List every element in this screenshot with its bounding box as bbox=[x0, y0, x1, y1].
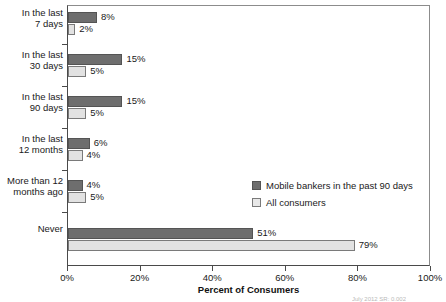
x-axis-tick bbox=[212, 266, 213, 271]
x-axis-tick-label: 60% bbox=[275, 272, 294, 284]
bar bbox=[68, 24, 75, 35]
x-axis-tick-label: 80% bbox=[348, 272, 367, 284]
bar bbox=[68, 54, 122, 65]
x-axis-tick bbox=[285, 266, 286, 271]
bar bbox=[68, 138, 90, 149]
legend-item-label: All consumers bbox=[266, 197, 326, 208]
x-axis-tick bbox=[430, 266, 431, 271]
x-axis-tick bbox=[140, 266, 141, 271]
x-axis-tick-label: 0% bbox=[60, 272, 74, 284]
category-label: In the last 12 months bbox=[0, 133, 63, 155]
bar-value-label: 15% bbox=[126, 95, 145, 107]
bar bbox=[68, 150, 83, 161]
bar-value-label: 5% bbox=[90, 65, 104, 77]
legend-swatch-icon bbox=[252, 198, 261, 207]
category-label: In the last 30 days bbox=[0, 49, 63, 71]
footnote-text: July 2012 SR: 0.002 bbox=[352, 296, 406, 302]
bar bbox=[68, 192, 86, 203]
bar-value-label: 5% bbox=[90, 191, 104, 203]
bar bbox=[68, 12, 97, 23]
category-label: Never bbox=[0, 223, 63, 234]
x-axis-tick-label: 40% bbox=[203, 272, 222, 284]
bar-value-label: 5% bbox=[90, 107, 104, 119]
y-axis-tick bbox=[62, 86, 67, 87]
y-axis-tick bbox=[62, 170, 67, 171]
bar bbox=[68, 228, 253, 239]
category-label: More than 12 months ago bbox=[0, 175, 63, 197]
bar-value-label: 8% bbox=[101, 11, 115, 23]
plot-area bbox=[67, 5, 430, 266]
bar-value-label: 6% bbox=[94, 137, 108, 149]
legend-item-mobile-bankers: Mobile bankers in the past 90 days bbox=[252, 178, 413, 192]
y-axis-tick bbox=[62, 212, 67, 213]
bar-value-label: 2% bbox=[79, 23, 93, 35]
bar bbox=[68, 96, 122, 107]
y-axis-tick bbox=[62, 44, 67, 45]
bar-value-label: 4% bbox=[87, 179, 101, 191]
x-axis-tick-label: 100% bbox=[418, 272, 442, 284]
bar-value-label: 51% bbox=[257, 227, 276, 239]
x-axis-tick-label: 20% bbox=[130, 272, 149, 284]
bar bbox=[68, 108, 86, 119]
bar bbox=[68, 240, 355, 251]
bar bbox=[68, 180, 83, 191]
legend-item-all-consumers: All consumers bbox=[252, 195, 413, 209]
x-axis-tick bbox=[67, 266, 68, 271]
x-axis-tick bbox=[357, 266, 358, 271]
bar-value-label: 79% bbox=[359, 239, 378, 251]
x-axis-title: Percent of Consumers bbox=[67, 284, 430, 295]
bar-value-label: 4% bbox=[87, 149, 101, 161]
legend-item-label: Mobile bankers in the past 90 days bbox=[266, 180, 413, 191]
bar-chart: In the last 7 days8%2%In the last 30 day… bbox=[0, 0, 446, 302]
bar bbox=[68, 66, 86, 77]
bar-value-label: 15% bbox=[126, 53, 145, 65]
category-label: In the last 90 days bbox=[0, 91, 63, 113]
legend-swatch-icon bbox=[252, 181, 261, 190]
chart-legend: Mobile bankers in the past 90 days All c… bbox=[252, 178, 413, 212]
category-label: In the last 7 days bbox=[0, 7, 63, 29]
y-axis-tick bbox=[62, 128, 67, 129]
